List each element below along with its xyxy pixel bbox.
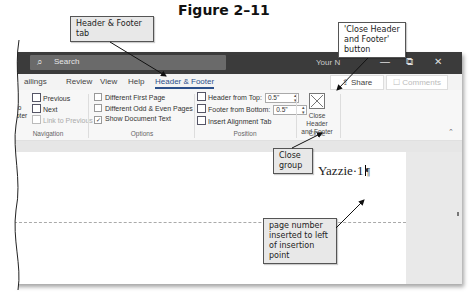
- previous-icon: [32, 93, 41, 102]
- callout-line: inserted to left: [269, 231, 328, 240]
- figure-title: Figure 2–11: [178, 2, 270, 18]
- options-group-label: Options: [94, 130, 190, 137]
- ribbon: to oter Previous Next Link to Previous N…: [14, 90, 462, 141]
- callout-line: Close: [279, 151, 301, 160]
- position-group-label: Position: [197, 130, 293, 137]
- share-label: Share: [351, 78, 372, 87]
- ribbon-tabs: ailings Review View Help Header & Footer…: [14, 74, 462, 90]
- header-boundary-line: [14, 222, 406, 223]
- header-from-top: Header from Top:0.5"▴▾: [197, 92, 299, 103]
- header-from-top-label: Header from Top:: [208, 94, 262, 101]
- callout-line: tab: [76, 29, 89, 38]
- tab-review[interactable]: Review: [66, 77, 92, 86]
- restore-button[interactable]: ⧉: [406, 56, 413, 68]
- close-window-button[interactable]: ✕: [434, 56, 442, 67]
- different-odd-even-checkbox[interactable]: Different Odd & Even Pages: [94, 104, 193, 112]
- header-position-icon: [197, 92, 206, 101]
- footer-from-bottom-value: 0.5": [276, 106, 287, 113]
- show-document-text-checkbox[interactable]: ✓Show Document Text: [94, 115, 171, 124]
- link-to-previous-button[interactable]: Link to Previous: [32, 115, 93, 124]
- link-icon: [32, 115, 41, 124]
- search-box[interactable]: ⌕ Search: [30, 55, 226, 70]
- paragraph-mark: ¶: [366, 166, 371, 177]
- document-area: Yazzie·1¶: [14, 152, 462, 284]
- insert-alignment-tab-label: Insert Alignment Tab: [208, 118, 271, 125]
- insert-alignment-tab-button[interactable]: Insert Alignment Tab: [197, 116, 271, 125]
- callout-line: Header & Footer: [76, 19, 142, 28]
- callout-line: and Footer': [344, 35, 389, 44]
- header-page-number: Yazzie·1¶: [318, 163, 370, 179]
- different-odd-even-label: Different Odd & Even Pages: [105, 105, 193, 112]
- checkmark-icon: ✓: [94, 116, 102, 124]
- previous-label: Previous: [43, 95, 70, 102]
- group-separator: [340, 94, 341, 138]
- collapse-ribbon-icon[interactable]: ⌃: [448, 128, 454, 136]
- tab-header-footer[interactable]: Header & Footer: [155, 77, 214, 86]
- show-document-text-label: Show Document Text: [105, 115, 171, 122]
- header-from-top-value: 0.5": [268, 94, 279, 101]
- alignment-tab-icon: [197, 116, 206, 125]
- callout-line: page number: [269, 221, 323, 230]
- close-header-footer-line1: Close Header: [306, 112, 327, 127]
- close-x-icon: [309, 93, 325, 109]
- previous-button[interactable]: Previous: [32, 93, 70, 102]
- next-icon: [32, 104, 41, 113]
- header-from-top-input[interactable]: 0.5"▴▾: [265, 93, 299, 103]
- footer-from-bottom-label: Footer from Bottom:: [208, 106, 270, 113]
- callout-page-number: page number inserted to left of insertio…: [263, 218, 337, 264]
- callout-close-group: Close group: [273, 148, 313, 174]
- comments-button[interactable]: ☐ Comments: [386, 75, 448, 90]
- torn-edge: [0, 40, 28, 290]
- tab-help[interactable]: Help: [128, 77, 144, 86]
- share-button[interactable]: ⇪ Share: [330, 75, 384, 90]
- callout-line: of insertion point: [269, 241, 314, 260]
- checkbox-unchecked: [94, 104, 102, 112]
- word-window: ⌕ Search Your N — ⧉ ✕ ailings Review Vie…: [14, 52, 462, 284]
- checkbox-unchecked: [94, 93, 102, 101]
- ruler-band: [14, 141, 462, 152]
- header-text: Yazzie·1: [318, 163, 364, 178]
- group-separator: [88, 94, 89, 138]
- footer-position-icon: [197, 104, 206, 113]
- different-first-page-checkbox[interactable]: Different First Page: [94, 93, 165, 101]
- callout-line: button: [344, 45, 370, 54]
- search-label: Search: [54, 57, 79, 66]
- tab-view[interactable]: View: [100, 77, 117, 86]
- document-page[interactable]: Yazzie·1¶: [14, 152, 406, 284]
- footer-from-bottom: Footer from Bottom:0.5"▴▾: [197, 104, 307, 115]
- document-name: Your N: [316, 58, 340, 67]
- share-icon: ⇪: [342, 78, 349, 87]
- next-label: Next: [43, 106, 57, 113]
- callout-line: 'Close Header: [344, 25, 400, 34]
- group-separator: [194, 94, 195, 138]
- group-separator: [296, 94, 297, 138]
- link-to-previous-label: Link to Previous: [43, 117, 93, 124]
- next-button[interactable]: Next: [32, 104, 57, 113]
- comment-icon: ☐: [393, 78, 400, 87]
- close-group-label: Close: [300, 130, 334, 137]
- search-icon: ⌕: [37, 56, 43, 68]
- different-first-page-label: Different First Page: [105, 94, 165, 101]
- callout-line: group: [279, 161, 302, 170]
- scrollbar[interactable]: [457, 212, 459, 216]
- comments-label: Comments: [402, 78, 441, 87]
- callout-header-footer-tab: Header & Footer tab: [70, 16, 154, 42]
- callout-close-button: 'Close Header and Footer' button: [338, 22, 406, 58]
